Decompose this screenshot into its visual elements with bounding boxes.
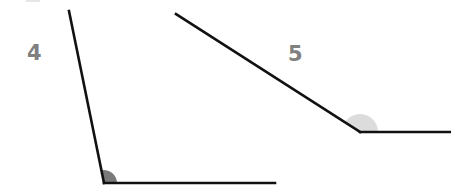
angle-4: 4 xyxy=(27,11,275,183)
angle-4-arm xyxy=(69,11,104,183)
angles-diagram: 4 5 xyxy=(0,0,451,187)
angle-5-arm xyxy=(176,14,360,132)
angle-5: 5 xyxy=(176,14,451,132)
angle-5-marker xyxy=(345,114,378,132)
angle-5-label: 5 xyxy=(288,42,303,66)
clipped-remnant xyxy=(26,0,40,2)
angle-4-label: 4 xyxy=(27,41,42,65)
